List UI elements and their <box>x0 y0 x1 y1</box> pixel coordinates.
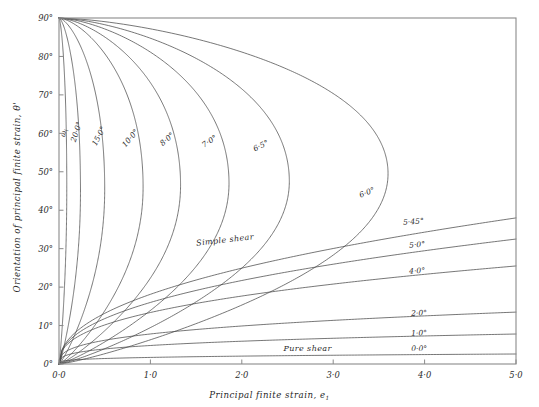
x-tick-label: 0·0 <box>52 370 66 380</box>
y-tick-label: 10° <box>38 321 53 331</box>
y-tick-label: 90° <box>38 13 53 23</box>
y-tick-label: 40° <box>37 205 53 215</box>
y-tick-label: 0° <box>43 359 53 369</box>
y-axis-title: Orientation of principal finite strain, … <box>11 102 22 293</box>
y-tick-label: 50° <box>38 167 53 177</box>
curve-label: 2·0° <box>410 308 427 318</box>
region-label-pure-shear: Pure shear <box>282 344 332 353</box>
curve-label: 5·45° <box>403 216 424 226</box>
x-tick-label: 1·0 <box>144 370 158 380</box>
y-tick-label: 30° <box>38 244 53 254</box>
x-axis-title: Principal finite strain, e1 <box>208 390 329 401</box>
y-tick-label: 60° <box>38 129 53 139</box>
curve-label: 1·0° <box>411 328 427 338</box>
curve-label: 0·0° <box>411 344 427 353</box>
chart-background <box>0 0 539 407</box>
y-tick-label: 20° <box>37 282 53 292</box>
x-tick-label: 3·0 <box>327 370 341 380</box>
y-tick-label: 80° <box>38 52 53 62</box>
x-tick-label: 2·0 <box>234 370 249 380</box>
curve-label: 4·0° <box>408 266 426 276</box>
chart-canvas: 0·01·02·03·04·05·00°10°20°30°40°50°60°70… <box>0 0 539 407</box>
y-tick-label: 70° <box>38 90 53 100</box>
x-tick-label: 5·0 <box>509 370 523 380</box>
curve-label: 5·0° <box>409 240 426 250</box>
deformation-path-chart: 0·01·02·03·04·05·00°10°20°30°40°50°60°70… <box>0 0 539 407</box>
x-tick-label: 4·0 <box>417 370 432 380</box>
